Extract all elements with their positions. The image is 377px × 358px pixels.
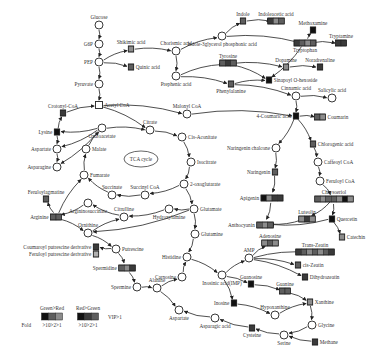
node-transzeatin[interactable]: Trans-Zeatin [296, 242, 335, 256]
node-isocitrate[interactable]: Isocitrate [187, 158, 217, 166]
heatmap-cell [268, 222, 274, 228]
node-tryptophan[interactable]: Tryptophan [293, 40, 317, 53]
edge-putrescine-to-spermidine [119, 253, 124, 262]
heatmap-cell [249, 325, 255, 331]
node-prephenic[interactable]: Prephenic acid [161, 72, 192, 87]
node-coumarin[interactable]: Coumarin [315, 114, 349, 120]
node-salicylic[interactable]: Salicylic acid [318, 87, 346, 103]
node-indole3gp[interactable]: Indole-3glycerol phosphonic acid [187, 32, 257, 47]
metabolite-label: Naringenin [247, 169, 271, 175]
metabolite-circle-icon [308, 321, 316, 329]
node-dihydrozeatin[interactable]: Dihydrozeatin [302, 274, 340, 280]
node-spermidine[interactable]: Spermidine [93, 265, 135, 271]
node-cinnamic[interactable]: Cinnamic acid [281, 85, 312, 101]
node-methoxamine[interactable]: Methoxamine [299, 20, 329, 34]
node-anthocyanin[interactable]: Anthocyanin [228, 222, 273, 228]
node-indole[interactable]: Indole [236, 11, 250, 25]
metabolite-circle-icon [328, 94, 336, 102]
heatmap-cell [294, 40, 300, 46]
node-histidine[interactable]: Histidine [162, 253, 191, 261]
metabolite-circle-icon [80, 171, 88, 179]
node-glycine[interactable]: Glycine [308, 321, 335, 329]
node-noradrenaline[interactable]: Noradrenaline [305, 57, 335, 71]
heatmap-cell [320, 114, 326, 120]
node-succinylcoa[interactable]: Succinyl CoA [130, 184, 160, 200]
node-apigenin[interactable]: Apigenin [240, 195, 283, 201]
node-catechin[interactable]: Catechin [339, 234, 365, 240]
node-tyrosine[interactable]: Tyrosine [219, 53, 238, 67]
node-sinapoyl[interactable]: Sinapoyl O-hexoside [266, 77, 318, 83]
node-chrysoeriol[interactable]: Chrysoeriol [315, 189, 354, 203]
node-feruloylcoa[interactable]: Feruloyl CoA [316, 177, 355, 185]
metabolite-label: Coumarin [328, 114, 349, 120]
node-quinic[interactable]: Quinic acid [128, 64, 160, 70]
edge-fumarate-to-malate [84, 154, 86, 170]
node-quercetin[interactable]: Quercetin [329, 216, 357, 222]
node-carnosine[interactable]: Carnosine [155, 273, 186, 281]
node-guanine[interactable]: Guanine [276, 281, 294, 295]
node-arginine[interactable]: Arginine [30, 214, 61, 220]
heatmap-cell [261, 195, 267, 201]
node-malate[interactable]: Malate [82, 145, 107, 153]
node-spermine[interactable]: Spermine [111, 283, 141, 291]
node-methane[interactable]: Methane [312, 339, 338, 345]
node-chlorogenic[interactable]: Chlorogenic acid [310, 141, 353, 147]
node-g6p[interactable]: G6P [84, 40, 103, 48]
node-naringenin[interactable]: Naringenin [247, 169, 278, 175]
node-malonylcoa[interactable]: Malonyl CoA [173, 103, 202, 119]
node-coumaroylput[interactable]: Coumaroyl putrescine derivative [23, 244, 99, 250]
node-cisaconitate[interactable]: Cis-Aconitate [178, 133, 218, 141]
node-argsucc[interactable]: Argininosuccinate [69, 199, 108, 214]
metabolite-label: Salicylic acid [318, 87, 346, 93]
edge-pep-to-shikimic [104, 51, 127, 61]
heatmap-cell [326, 196, 332, 202]
node-luteolin[interactable]: Luteolin [298, 209, 316, 223]
heatmap-cell [51, 214, 57, 220]
node-oxaloacetate[interactable]: Oxaloacetate [88, 124, 116, 139]
node-shikimic[interactable]: Shikimic acid [117, 39, 146, 53]
node-feruloylput[interactable]: Feruloyl putrescine derivative [29, 251, 99, 257]
node-acetylcoa[interactable]: Acetyl CoA [96, 102, 130, 109]
node-fumarate[interactable]: Fumarate [80, 171, 110, 179]
node-imp[interactable]: Inosinic acid(IMP) [202, 271, 242, 287]
node-xanthine[interactable]: Xanthine [307, 299, 334, 305]
metabolite-circle-icon [271, 311, 279, 319]
heatmap-cell [257, 222, 263, 228]
node-glucose[interactable]: Glucose [91, 14, 109, 30]
metabolite-label: Succinate [102, 184, 123, 190]
node-tryptamine[interactable]: Tryptamine [329, 33, 354, 47]
metabolite-label: Phenylalanine [216, 88, 246, 94]
node-ciszeatin[interactable]: cis-Zeatin [295, 262, 324, 268]
node-succinate[interactable]: Succinate [102, 184, 123, 200]
node-aspartate_b[interactable]: Aspartate [169, 306, 190, 321]
node-citrulline[interactable]: Citrulline [114, 206, 135, 222]
metabolite-label: Noradrenaline [305, 57, 335, 63]
heatmap-cell [301, 249, 307, 255]
node-dopamine[interactable]: Dopamine [275, 57, 297, 71]
node-glutamate[interactable]: Glutamate [190, 205, 222, 213]
edge-glutamine-to-histidine [189, 239, 194, 252]
node-adenosine[interactable]: Adenosine [259, 233, 282, 247]
node-iaa[interactable]: Indoleacetic acid [258, 11, 294, 25]
heatmap-cell [128, 64, 134, 70]
node-amp[interactable]: AMP [243, 247, 254, 263]
node-phenylalanine[interactable]: Phenylalanine [216, 81, 246, 94]
metabolite-label: Feruloylagmatine [28, 189, 65, 195]
node-inosine[interactable]: Inosine [214, 300, 237, 306]
node-oxoglutarate[interactable]: 2-oxoglutarate [180, 180, 221, 188]
node-coumaric[interactable]: 4-Coumaric acid [257, 113, 299, 119]
node-citrate[interactable]: Citrate [143, 119, 158, 135]
node-lysine[interactable]: Lysine [38, 129, 59, 135]
node-aspartate_l[interactable]: Aspartate [31, 145, 61, 153]
metabolite-label: Hydroxylamine [153, 214, 186, 220]
node-pyruvate[interactable]: Pyruvate [75, 80, 103, 88]
node-asparagine[interactable]: Asparagine [27, 163, 61, 171]
node-putrescine[interactable]: Putrescine [112, 245, 144, 253]
legend-vip-label: VIP>1 [108, 314, 122, 320]
node-feruloylagmatine[interactable]: Feruloylagmatine [28, 189, 65, 203]
node-pep[interactable]: PEP [84, 58, 103, 66]
node-naringenin_ch[interactable]: Naringenin chalcone [227, 144, 280, 152]
node-caffeoylcoa[interactable]: Caffeoyl CoA [314, 158, 353, 166]
node-glutamine[interactable]: Glutamine [191, 230, 224, 238]
metabolite-label: Guanine [276, 281, 294, 287]
